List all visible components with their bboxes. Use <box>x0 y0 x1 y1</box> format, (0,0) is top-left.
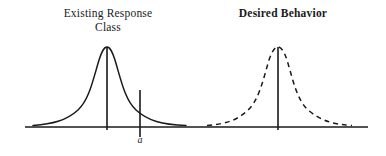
figure-container: Existing Response Class Desired Behavior… <box>0 0 386 156</box>
distributions-plot <box>0 0 386 156</box>
criterion-label-a: a <box>128 134 152 145</box>
curve-desired-behavior <box>207 47 352 126</box>
curve-existing-response-class <box>33 47 186 126</box>
